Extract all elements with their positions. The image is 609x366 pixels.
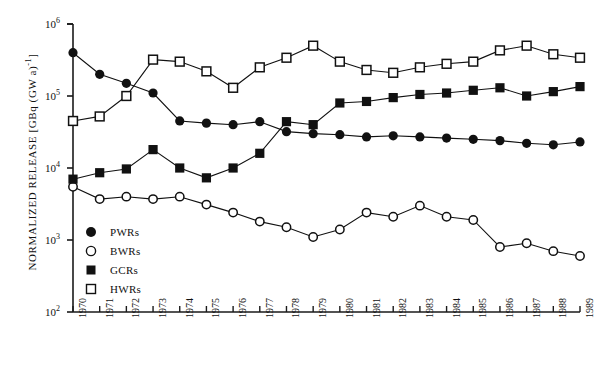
data-point-gcrs-1988	[549, 87, 558, 96]
data-point-bwrs-1974	[176, 192, 184, 200]
x-tick-label-1982: 1982	[397, 298, 408, 318]
series-gcrs	[68, 82, 584, 184]
data-point-bwrs-1985	[469, 216, 477, 224]
data-point-pwrs-1981	[362, 132, 371, 141]
x-tick-label-1973: 1973	[157, 298, 168, 318]
data-point-gcrs-1982	[389, 93, 398, 102]
x-tick-label-1989: 1989	[584, 298, 595, 318]
data-point-hwrs-1982	[389, 68, 398, 77]
data-point-pwrs-1973	[148, 88, 157, 97]
data-point-hwrs-1972	[122, 92, 131, 101]
data-point-gcrs-1978	[282, 117, 291, 126]
data-point-pwrs-1989	[575, 137, 584, 146]
legend-label-gcrs: GCRs	[110, 264, 138, 276]
data-point-gcrs-1984	[442, 88, 451, 97]
data-point-pwrs-1974	[175, 116, 184, 125]
series-hwrs	[69, 41, 585, 125]
data-point-hwrs-1984	[442, 59, 451, 68]
data-point-hwrs-1976	[229, 83, 238, 92]
x-tick-label-1986: 1986	[504, 298, 515, 318]
y-tick-label-1000: 103	[20, 232, 60, 246]
data-point-hwrs-1980	[335, 57, 344, 66]
data-point-gcrs-1971	[95, 168, 104, 177]
data-point-hwrs-1974	[175, 57, 184, 66]
chart-figure: NORMALIZED RELEASE [GBq (GW a)-1] 102103…	[0, 0, 609, 366]
data-point-bwrs-1986	[496, 243, 504, 251]
x-tick-label-1971: 1971	[104, 298, 115, 318]
series-pwrs	[68, 48, 584, 149]
data-point-hwrs-1971	[95, 112, 104, 121]
open-square-icon	[84, 282, 110, 296]
data-point-hwrs-1985	[469, 57, 478, 66]
data-point-gcrs-1976	[229, 163, 238, 172]
y-tick-label-100: 102	[20, 304, 60, 318]
data-point-gcrs-1980	[335, 98, 344, 107]
data-point-bwrs-1984	[442, 213, 450, 221]
data-point-pwrs-1982	[389, 131, 398, 140]
data-point-pwrs-1985	[469, 135, 478, 144]
data-point-hwrs-1986	[496, 46, 505, 55]
x-tick-label-1983: 1983	[424, 298, 435, 318]
data-point-bwrs-1975	[202, 200, 210, 208]
data-point-gcrs-1986	[495, 83, 504, 92]
data-point-bwrs-1988	[549, 247, 557, 255]
data-point-hwrs-1981	[362, 66, 371, 75]
x-tick-label-1970: 1970	[77, 298, 88, 318]
data-point-gcrs-1970	[68, 175, 77, 184]
data-point-hwrs-1973	[149, 55, 158, 64]
x-tick-label-1985: 1985	[477, 298, 488, 318]
series-line-gcrs	[73, 87, 580, 180]
data-point-hwrs-1983	[415, 63, 424, 72]
data-point-bwrs-1978	[282, 223, 290, 231]
data-point-bwrs-1979	[309, 233, 317, 241]
data-point-gcrs-1972	[122, 164, 131, 173]
data-point-pwrs-1988	[549, 140, 558, 149]
data-point-gcrs-1983	[415, 90, 424, 99]
data-point-bwrs-1977	[256, 217, 264, 225]
axes	[67, 24, 580, 312]
data-point-pwrs-1984	[442, 134, 451, 143]
data-point-pwrs-1983	[415, 132, 424, 141]
series-line-pwrs	[73, 53, 580, 145]
data-point-pwrs-1980	[335, 130, 344, 139]
data-point-hwrs-1978	[282, 53, 291, 62]
legend-item-bwrs: BWRs	[84, 241, 141, 260]
data-point-bwrs-1987	[522, 239, 530, 247]
plot-area	[0, 0, 609, 366]
x-tick-label-1984: 1984	[451, 298, 462, 318]
data-series-layer	[68, 41, 584, 260]
data-point-gcrs-1979	[309, 120, 318, 129]
data-point-gcrs-1985	[469, 86, 478, 95]
data-point-pwrs-1977	[255, 117, 264, 126]
data-point-pwrs-1978	[282, 127, 291, 136]
data-point-bwrs-1973	[149, 195, 157, 203]
open-circle-icon	[84, 244, 110, 258]
legend-label-pwrs: PWRs	[110, 226, 139, 238]
x-tick-label-1981: 1981	[371, 298, 382, 318]
data-point-pwrs-1986	[495, 136, 504, 145]
chart-legend: PWRs BWRs GCRs HWRs	[84, 222, 141, 298]
legend-label-bwrs: BWRs	[110, 245, 141, 257]
data-point-gcrs-1975	[202, 173, 211, 182]
data-point-pwrs-1972	[122, 79, 131, 88]
series-bwrs	[69, 182, 584, 260]
data-point-hwrs-1989	[576, 53, 585, 62]
data-point-bwrs-1981	[362, 208, 370, 216]
data-point-bwrs-1989	[576, 252, 584, 260]
x-tick-label-1978: 1978	[290, 298, 301, 318]
data-point-bwrs-1972	[122, 192, 130, 200]
filled-circle-icon	[84, 225, 110, 239]
legend-label-hwrs: HWRs	[110, 283, 141, 295]
y-tick-label-1000000: 106	[20, 16, 60, 30]
data-point-pwrs-1976	[229, 120, 238, 129]
x-tick-label-1972: 1972	[130, 298, 141, 318]
x-tick-label-1980: 1980	[344, 298, 355, 318]
data-point-pwrs-1970	[68, 48, 77, 57]
data-point-hwrs-1975	[202, 67, 211, 76]
data-point-bwrs-1971	[95, 195, 103, 203]
y-tick-label-100000: 105	[20, 88, 60, 102]
y-tick-label-10000: 104	[20, 160, 60, 174]
data-point-pwrs-1979	[309, 129, 318, 138]
data-point-bwrs-1980	[336, 225, 344, 233]
data-point-bwrs-1970	[69, 182, 77, 190]
